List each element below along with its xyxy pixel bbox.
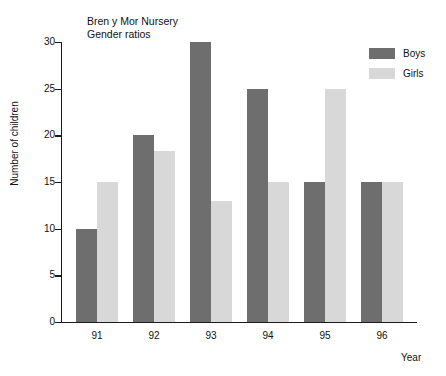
y-tick-mark <box>55 229 61 230</box>
y-tick-label: 5 <box>19 269 55 280</box>
bar-girls-92 <box>154 151 175 322</box>
y-tick-label: 0 <box>19 316 55 327</box>
bar-girls-94 <box>268 182 289 322</box>
x-tick-label: 95 <box>304 330 346 341</box>
y-tick-mark <box>55 322 61 323</box>
y-tick-mark <box>55 89 61 90</box>
x-tick-label: 94 <box>247 330 289 341</box>
plot-area <box>62 42 412 322</box>
x-axis-title: Year <box>401 352 421 363</box>
bar-girls-91 <box>97 182 118 322</box>
legend-swatch-boys <box>369 48 395 59</box>
legend-swatch-girls <box>369 68 395 79</box>
x-tick-label: 92 <box>133 330 175 341</box>
x-tick-label: 93 <box>190 330 232 341</box>
y-tick-label: 20 <box>19 129 55 140</box>
chart-legend: Boys Girls <box>369 47 425 87</box>
x-tick-label: 91 <box>76 330 118 341</box>
bar-boys-94 <box>247 89 268 322</box>
x-tick-label: 96 <box>361 330 403 341</box>
bar-boys-96 <box>361 182 382 322</box>
y-tick-label: 10 <box>19 223 55 234</box>
y-tick-mark <box>55 42 61 43</box>
bar-boys-93 <box>190 42 211 322</box>
y-tick-mark <box>55 135 61 136</box>
y-tick-label: 30 <box>19 36 55 47</box>
y-tick-label: 15 <box>19 176 55 187</box>
bar-girls-96 <box>382 182 403 322</box>
legend-label-boys: Boys <box>403 48 425 59</box>
bar-girls-95 <box>325 89 346 322</box>
chart-subtitle: Gender ratios <box>87 28 151 41</box>
legend-label-girls: Girls <box>403 68 424 79</box>
y-tick-mark <box>55 182 61 183</box>
bar-boys-95 <box>304 182 325 322</box>
bar-chart: Bren y Mor Nursery Gender ratios Number … <box>0 0 446 376</box>
y-axis-title: Number of children <box>9 84 20 204</box>
chart-title: Bren y Mor Nursery <box>87 15 178 28</box>
bar-boys-91 <box>76 229 97 322</box>
legend-item-girls: Girls <box>369 67 425 80</box>
y-tick-mark <box>55 275 61 276</box>
legend-item-boys: Boys <box>369 47 425 60</box>
bar-boys-92 <box>133 135 154 322</box>
bar-girls-93 <box>211 201 232 322</box>
y-tick-label: 25 <box>19 83 55 94</box>
